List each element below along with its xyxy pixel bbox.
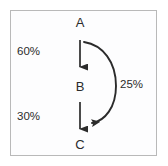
edge-label-a-to-bc: 25% bbox=[120, 78, 143, 91]
edge-label-a-to-b: 60% bbox=[17, 45, 40, 58]
node-c-label: C bbox=[68, 138, 92, 152]
node-a-label: A bbox=[68, 16, 92, 30]
flow-diagram-figure: A B C 60% 30% 25% bbox=[0, 0, 168, 166]
edge-label-b-to-c: 30% bbox=[17, 110, 40, 123]
node-b-label: B bbox=[68, 80, 92, 94]
